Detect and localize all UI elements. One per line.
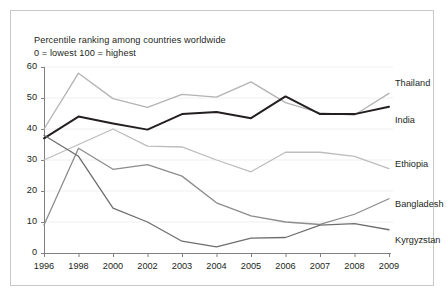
y-axis-tick-label: 10 [15,216,37,226]
y-axis-tick-label: 40 [15,123,37,133]
tick-marks [41,68,390,258]
y-axis-tick-label: 20 [15,185,37,195]
y-axis-tick-label: 60 [15,61,37,71]
y-axis-tick-label: 30 [15,154,37,164]
chart-figure: Percentile ranking among countries world… [0,0,447,299]
series-label-bangladesh: Bangladesh [395,199,444,209]
series-label-india: India [395,115,415,125]
series-line-india [44,96,389,138]
line-chart-plot [11,11,435,287]
series-line-ethiopia [44,129,389,172]
gridlines [44,67,393,222]
series-label-ethiopia: Ethiopia [395,159,428,169]
y-axis-tick-label: 0 [15,247,37,257]
figure-frame: Percentile ranking among countries world… [10,10,434,286]
y-axis-tick-label: 50 [15,92,37,102]
series-label-thailand: Thailand [395,78,430,88]
series-label-kyrgyzstan: Kyrgyzstan [395,235,440,245]
x-axis-tick-label: 2009 [369,261,409,271]
